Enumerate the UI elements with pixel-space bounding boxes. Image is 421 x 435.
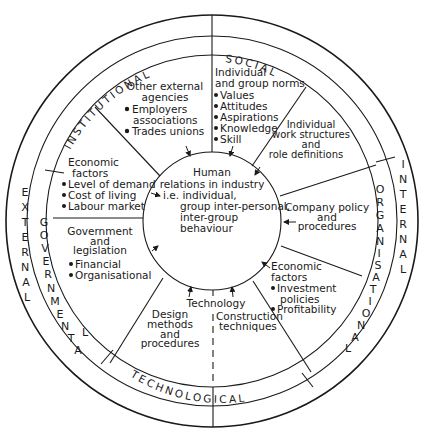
bullet-icon bbox=[62, 182, 66, 186]
svg-text:R: R bbox=[44, 268, 52, 281]
svg-text:N: N bbox=[47, 282, 55, 295]
center-human-relations: Human relations in industry i.e. individ… bbox=[160, 166, 290, 234]
bullet-icon bbox=[62, 193, 66, 197]
svg-text:Profitability: Profitability bbox=[277, 303, 337, 315]
svg-text:A: A bbox=[399, 248, 407, 261]
svg-text:E: E bbox=[22, 186, 29, 199]
svg-text:G: G bbox=[376, 209, 385, 222]
environment-diagram: E X T E R N A L I N T E R N A L INSTITUT… bbox=[0, 0, 421, 435]
segment-other-agencies: Other external agencies Employers associ… bbox=[125, 80, 205, 137]
svg-text:A: A bbox=[376, 222, 384, 235]
svg-text:Organisational: Organisational bbox=[75, 269, 151, 281]
svg-text:T: T bbox=[399, 188, 407, 201]
bullet-icon bbox=[125, 107, 129, 111]
svg-text:O: O bbox=[376, 183, 385, 196]
svg-text:M: M bbox=[50, 295, 60, 308]
svg-text:N: N bbox=[399, 173, 407, 186]
segment-company-policy: Company policy and procedures bbox=[285, 201, 369, 232]
svg-text:L: L bbox=[24, 291, 31, 304]
segment-government: Government and legislation Financial Org… bbox=[67, 225, 151, 281]
divider-org-tech bbox=[302, 373, 313, 387]
sector-line-3 bbox=[280, 165, 376, 196]
svg-text:procedures: procedures bbox=[141, 337, 200, 349]
segment-economic-internal: Economic factors Investment policies Pro… bbox=[271, 260, 337, 315]
svg-text:I: I bbox=[401, 158, 404, 171]
bullet-icon bbox=[69, 273, 73, 277]
bullet-icon bbox=[214, 93, 218, 97]
label-external: E X T E R N A L bbox=[21, 186, 31, 304]
bullet-icon bbox=[214, 126, 218, 130]
bullet-icon bbox=[214, 115, 218, 119]
svg-text:N: N bbox=[399, 233, 407, 246]
svg-text:A: A bbox=[22, 276, 30, 289]
svg-text:procedures: procedures bbox=[298, 220, 357, 232]
bullet-icon bbox=[214, 104, 218, 108]
svg-text:O: O bbox=[40, 229, 49, 242]
svg-text:Trades unions: Trades unions bbox=[131, 125, 204, 137]
svg-text:G: G bbox=[40, 216, 49, 229]
divider-inst-gov bbox=[45, 170, 64, 173]
svg-text:N: N bbox=[21, 261, 29, 274]
svg-text:E: E bbox=[400, 203, 407, 216]
svg-text:E: E bbox=[43, 255, 50, 268]
svg-text:L: L bbox=[82, 326, 89, 339]
svg-text:T: T bbox=[21, 216, 29, 229]
svg-text:agencies: agencies bbox=[142, 91, 189, 103]
svg-text:behaviour: behaviour bbox=[180, 222, 233, 234]
svg-text:role definitions: role definitions bbox=[269, 149, 343, 160]
bullet-icon bbox=[271, 286, 275, 290]
segment-economic-external: Economic factors Level of demand Cost of… bbox=[62, 156, 156, 212]
bullet-icon bbox=[62, 204, 66, 208]
svg-text:techniques: techniques bbox=[219, 320, 277, 332]
svg-text:X: X bbox=[21, 201, 29, 214]
svg-text:A: A bbox=[351, 331, 359, 344]
bullet-icon bbox=[214, 137, 218, 141]
svg-text:R: R bbox=[399, 218, 407, 231]
svg-text:and group norms: and group norms bbox=[215, 77, 305, 89]
svg-text:Labour market: Labour market bbox=[68, 200, 145, 212]
svg-text:R: R bbox=[376, 196, 384, 209]
segment-technology: Technology Construction techniques Desig… bbox=[141, 297, 283, 349]
bullet-icon bbox=[125, 129, 129, 133]
svg-text:R: R bbox=[21, 246, 29, 259]
svg-text:Technology: Technology bbox=[186, 297, 246, 309]
segment-work-structures: Individual work structures and role defi… bbox=[269, 119, 350, 160]
svg-text:L: L bbox=[400, 263, 407, 276]
svg-text:Human: Human bbox=[193, 166, 231, 178]
svg-text:L: L bbox=[345, 342, 352, 355]
svg-text:legislation: legislation bbox=[73, 244, 127, 256]
label-governmental: G O V E R N M E N T A L bbox=[40, 216, 89, 357]
svg-text:Skill: Skill bbox=[220, 133, 242, 145]
svg-text:A: A bbox=[74, 344, 82, 357]
label-internal: I N T E R N A L bbox=[399, 158, 408, 276]
bullet-icon bbox=[69, 262, 73, 266]
svg-text:E: E bbox=[22, 231, 29, 244]
svg-text:V: V bbox=[41, 242, 49, 255]
